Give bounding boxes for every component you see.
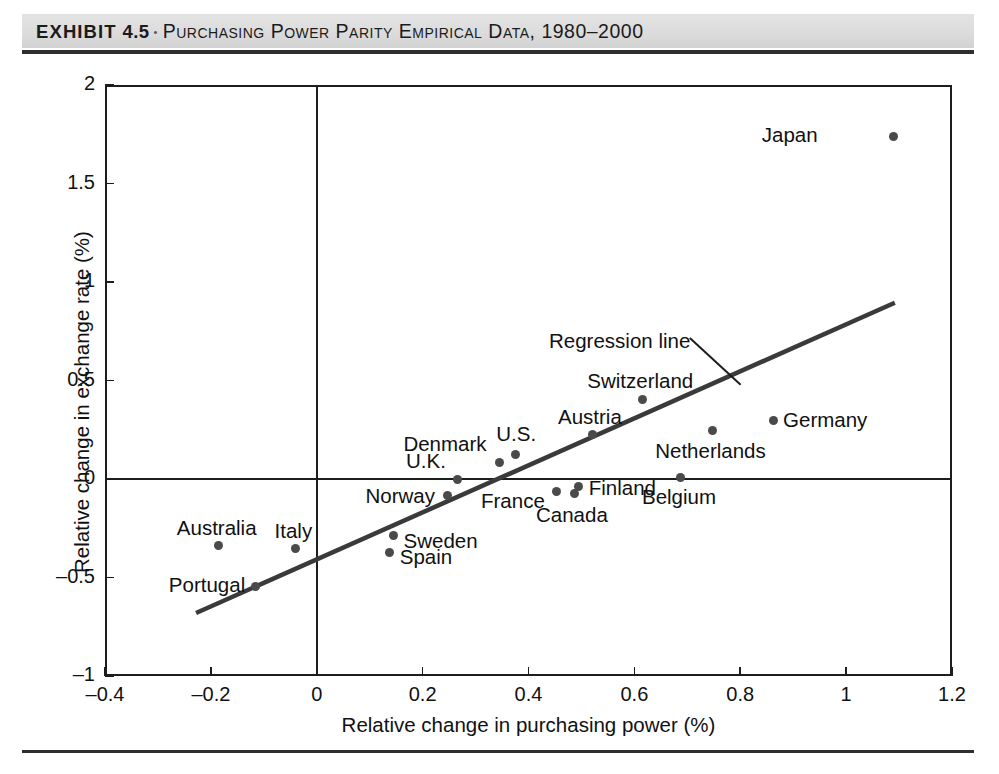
x-axis-tick [951, 667, 953, 676]
data-point [495, 458, 504, 467]
x-axis-tick [528, 667, 530, 676]
data-point [453, 475, 462, 484]
y-axis-tick [105, 84, 114, 86]
data-point-label: Netherlands [655, 441, 766, 462]
data-point-label: Spain [400, 547, 452, 568]
data-point-label: U.K. [406, 451, 446, 472]
data-point-label: U.S. [496, 424, 536, 445]
data-point [570, 489, 579, 498]
data-point-label: Australia [177, 518, 257, 539]
exhibit-page: EXHIBIT 4.5•Purchasing Power Parity Empi… [0, 0, 999, 774]
zero-line-vertical [316, 85, 318, 676]
data-point-label: Switzerland [587, 371, 693, 392]
data-point-label: Portugal [169, 575, 245, 596]
data-point-label: Austria [558, 407, 622, 428]
x-axis-tick [422, 667, 424, 676]
data-point [389, 531, 398, 540]
scatter-chart: 21.510.50–0.5–1–0.4–0.200.20.40.60.811.2… [0, 0, 999, 774]
x-axis-tick [634, 667, 636, 676]
x-axis-tick [316, 667, 318, 676]
x-axis-tick [210, 667, 212, 676]
data-point-label: Germany [783, 410, 867, 431]
data-point-label: Canada [536, 505, 608, 526]
x-axis-tick [739, 667, 741, 676]
x-axis-tick-label: 0.4 [489, 683, 569, 706]
x-axis-tick-label: –0.4 [65, 683, 145, 706]
x-axis-tick-label: –0.2 [171, 683, 251, 706]
y-axis-label: Relative change in exchange rate (%) [70, 142, 94, 662]
x-axis-tick-label: 0.6 [594, 683, 674, 706]
data-point [769, 416, 778, 425]
y-axis-tick-label: 2 [84, 72, 95, 95]
y-axis-tick [105, 577, 114, 579]
x-axis-tick-label: 0.8 [700, 683, 780, 706]
x-axis-tick [845, 667, 847, 676]
data-point-label: Japan [762, 125, 818, 146]
x-axis-label: Relative change in purchasing power (%) [105, 713, 952, 737]
x-axis-tick-label: 1 [806, 683, 886, 706]
x-axis-tick-label: 0 [277, 683, 357, 706]
data-point [588, 430, 597, 439]
data-point-label: Finland [589, 478, 656, 499]
data-point [511, 450, 520, 459]
data-point [552, 487, 561, 496]
y-axis-tick [105, 380, 114, 382]
data-point-label: France [481, 491, 545, 512]
data-point [676, 473, 685, 482]
x-axis-tick [104, 667, 106, 676]
data-point-label: Italy [275, 521, 313, 542]
regression-line-annotation: Regression line [549, 331, 690, 352]
y-axis-tick [105, 675, 114, 677]
y-axis-tick [105, 281, 114, 283]
zero-line-horizontal [105, 478, 952, 480]
x-axis-tick-label: 0.2 [383, 683, 463, 706]
data-point [638, 395, 647, 404]
x-axis-tick-label: 1.2 [912, 683, 992, 706]
y-axis-tick [105, 183, 114, 185]
data-point [889, 132, 898, 141]
data-point-label: Norway [366, 486, 436, 507]
y-axis-label-host: Relative change in exchange rate (%) [40, 85, 41, 676]
